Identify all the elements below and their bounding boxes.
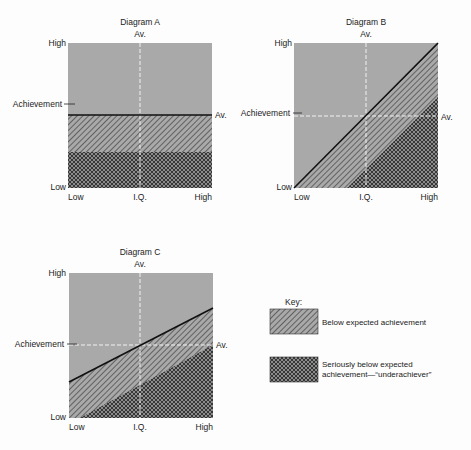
diagram-c-y-low-label: Low	[50, 412, 66, 422]
diagram-c-x-average-label: Av.	[134, 259, 146, 269]
diagram-b-title: Diagram B	[346, 17, 386, 27]
diagram-a-y-axis-label: Achievement	[13, 99, 63, 109]
diagram-c-x-axis-label: I.Q.	[133, 422, 147, 432]
diagram-a-y-average-label: Av.	[215, 110, 227, 120]
diagram-c-title: Diagram C	[120, 247, 161, 257]
diagram-b-x-low-label: Low	[294, 192, 310, 202]
diagram-c: Diagram C Av. High Achievement Low Av. L…	[15, 247, 228, 432]
key-swatch-underachiever	[270, 357, 318, 382]
key-swatch-below-expected	[270, 309, 318, 334]
key-legend: Key:	[270, 297, 318, 382]
diagram-a-x-axis-label: I.Q.	[133, 192, 147, 202]
diagram-a-x-average-label: Av.	[134, 29, 146, 39]
diagram-c-x-low-label: Low	[69, 422, 85, 432]
diagram-a-y-high-label: High	[49, 38, 67, 48]
diagram-c-y-axis-label: Achievement	[15, 339, 65, 349]
key-title: Key:	[285, 297, 302, 307]
diagram-a-y-low-label: Low	[50, 182, 66, 192]
diagram-b-x-average-label: Av.	[360, 29, 372, 39]
diagram-b-y-low-label: Low	[276, 182, 292, 192]
key-label-below-expected: Below expected achievement	[322, 318, 426, 328]
diagram-a-x-low-label: Low	[68, 192, 84, 202]
key-label-underachiever: Seriously below expected achievement—“un…	[322, 360, 432, 380]
diagram-a: Diagram A Av. High Achievement Low Av. L…	[13, 17, 227, 202]
diagrams-canvas: Diagram A Av. High Achievement Low Av. L…	[0, 0, 471, 450]
diagram-b-y-high-label: High	[275, 38, 293, 48]
diagram-b: Diagram B Av. High Achievement Low Av. L…	[241, 17, 453, 202]
diagram-b-y-axis-label: Achievement	[241, 108, 291, 118]
diagram-a-title: Diagram A	[120, 17, 160, 27]
diagram-a-x-high-label: High	[195, 192, 213, 202]
diagram-c-y-high-label: High	[49, 268, 67, 278]
diagram-b-x-high-label: High	[421, 192, 439, 202]
diagram-b-x-axis-label: I.Q.	[359, 192, 373, 202]
diagram-b-y-average-label: Av.	[441, 112, 453, 122]
diagram-c-x-high-label: High	[196, 422, 214, 432]
diagram-c-y-average-label: Av.	[216, 340, 228, 350]
